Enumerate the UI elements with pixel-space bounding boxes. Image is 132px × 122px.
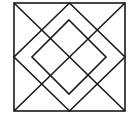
geometric-diagram [0,0,132,122]
